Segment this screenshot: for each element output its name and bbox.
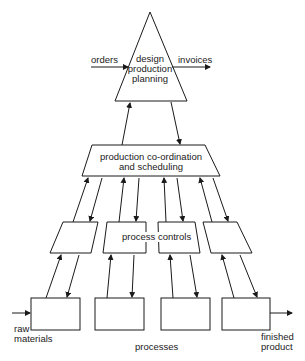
- control-2-down-arrow: [136, 178, 139, 221]
- coordination-to-planning-arrow: [122, 103, 130, 145]
- process-controls-label: process controls: [121, 232, 192, 242]
- control-3-up-arrow: [164, 178, 166, 222]
- control-1-up-arrow: [73, 178, 88, 222]
- finished-product-label: finished product: [261, 332, 294, 352]
- raw-materials-line2: materials: [14, 334, 53, 344]
- planning-label: design production planning: [120, 54, 180, 84]
- orders-label: orders: [91, 55, 118, 65]
- coordination-label: production co-ordination and scheduling: [95, 152, 207, 172]
- control-shape-4: [203, 222, 252, 253]
- planning-to-coordination-arrow: [171, 102, 180, 144]
- process-2-up-arrow: [107, 255, 111, 298]
- process-box-2: [95, 298, 144, 330]
- process-box-3: [161, 298, 210, 330]
- process-box-4: [222, 298, 270, 330]
- control-shape-1: [50, 222, 98, 253]
- process-1-down-arrow: [67, 255, 79, 297]
- finished-product-line2: product: [261, 342, 294, 352]
- processes-label: processes: [135, 342, 178, 352]
- process-3-down-arrow: [190, 255, 197, 297]
- planning-label-line3: planning: [120, 74, 180, 84]
- process-3-up-arrow: [170, 255, 173, 298]
- process-4-up-arrow: [222, 255, 234, 298]
- process-4-down-arrow: [240, 255, 257, 297]
- control-4-up-arrow: [200, 178, 212, 222]
- coordination-label-line2: and scheduling: [95, 162, 207, 172]
- control-1-down-arrow: [90, 178, 102, 221]
- control-4-down-arrow: [213, 178, 228, 221]
- process-2-down-arrow: [132, 255, 134, 297]
- control-2-up-arrow: [119, 178, 124, 222]
- process-1-up-arrow: [46, 255, 61, 298]
- raw-materials-label: raw materials: [14, 324, 53, 344]
- invoices-label: invoices: [178, 55, 212, 65]
- control-3-down-arrow: [177, 178, 183, 221]
